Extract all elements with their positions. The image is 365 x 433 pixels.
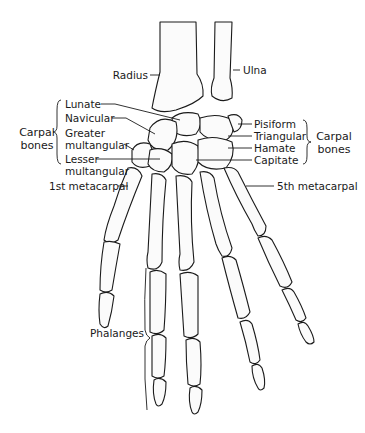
carpal-left-line1: Carpal [18, 126, 56, 139]
little-middle-phalanx [282, 288, 306, 321]
carpal-right-line1: Carpal [314, 130, 354, 143]
metacarpal-4 [200, 172, 232, 257]
index-distal-phalanx [153, 378, 166, 406]
hand-bones-illustration [0, 0, 365, 433]
lesser-multangular-bone [148, 149, 172, 172]
phalanges-brace [145, 268, 150, 410]
carpal-left-line2: bones [18, 139, 56, 152]
right-carpal-brace [303, 120, 311, 164]
metacarpal-3 [176, 176, 194, 271]
index-middle-phalanx [152, 334, 166, 378]
label-pisiform: Pisiform [254, 118, 296, 130]
label-lesser-multangular-1: Lesser [65, 153, 99, 165]
little-proximal-phalanx [258, 236, 292, 287]
label-capitate: Capitate [254, 154, 298, 166]
middle-middle-phalanx [186, 338, 201, 386]
thumb-proximal-phalanx [100, 241, 120, 292]
label-fifth-metacarpal: 5th metacarpal [277, 180, 358, 192]
triangular-bone [200, 115, 233, 140]
label-first-metacarpal: 1st metacarpal [49, 180, 128, 192]
ring-middle-phalanx [240, 320, 260, 363]
label-ulna: Ulna [243, 64, 267, 76]
label-navicular: Navicular [65, 112, 115, 124]
ulna-bone [211, 22, 232, 101]
ring-distal-phalanx [252, 364, 265, 390]
thumb-distal-phalanx [99, 292, 114, 327]
metacarpal-2 [147, 174, 166, 270]
little-distal-phalanx [298, 322, 314, 344]
hamate-bone [198, 137, 233, 169]
metacarpal-5 [224, 168, 266, 237]
capitate-bone [172, 141, 199, 174]
label-greater-multangular-1: Greater [65, 127, 105, 139]
label-phalanges: Phalanges [90, 327, 144, 339]
middle-proximal-phalanx [180, 272, 198, 337]
hand-skeleton-diagram: Radius Ulna Lunate Navicular Greater mul… [0, 0, 365, 433]
ring-proximal-phalanx [222, 256, 250, 318]
navicular-leader [112, 118, 155, 134]
label-hamate: Hamate [254, 142, 296, 154]
label-greater-multangular-2: multangular [65, 139, 129, 151]
carpal-bones-group-right: Carpal bones [314, 130, 354, 156]
carpal-bones-group-left: Carpal bones [18, 126, 56, 152]
label-radius: Radius [108, 69, 148, 81]
middle-distal-phalanx [189, 386, 202, 414]
label-lesser-multangular-2: multangular [65, 165, 129, 177]
carpal-right-line2: bones [314, 143, 354, 156]
label-triangular: Triangular [254, 130, 306, 142]
metacarpal-1 [104, 168, 142, 243]
radius-bone [152, 22, 203, 112]
label-lunate: Lunate [65, 98, 101, 110]
index-proximal-phalanx [150, 270, 166, 333]
